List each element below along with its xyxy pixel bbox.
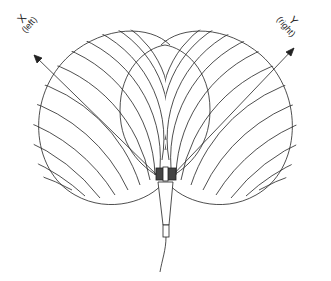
- xy-stereo-pickup-diagram: [0, 0, 331, 281]
- mic-cable: [160, 237, 166, 272]
- left-pattern-outline: [39, 31, 170, 204]
- mic-body: [158, 182, 173, 225]
- right-hatching: [161, 24, 309, 198]
- left-hatching: [22, 24, 170, 198]
- x-axis-arrow: [34, 55, 160, 178]
- right-pattern-outline: [161, 31, 292, 204]
- microphone: [156, 167, 176, 272]
- overlap-outline: [120, 45, 210, 180]
- mic-connector: [163, 225, 169, 237]
